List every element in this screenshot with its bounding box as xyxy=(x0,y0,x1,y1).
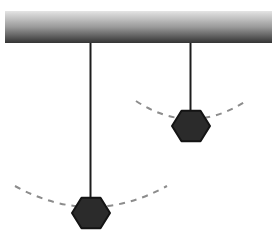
ceiling-support-bar xyxy=(5,11,272,43)
pendulum-diagram-svg xyxy=(0,0,278,237)
left-pendulum-bob xyxy=(72,198,110,228)
pendulum-layer xyxy=(15,43,246,228)
left-pendulum xyxy=(15,43,167,228)
pendulum-diagram-canvas xyxy=(0,0,278,237)
right-pendulum xyxy=(136,43,246,141)
right-pendulum-bob xyxy=(172,111,210,141)
